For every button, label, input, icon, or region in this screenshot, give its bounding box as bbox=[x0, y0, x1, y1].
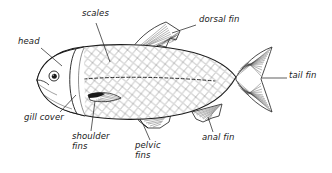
fish-anatomy-diagram: head scales dorsal fin tail fin gill cov… bbox=[0, 0, 332, 173]
fish-illustration bbox=[0, 0, 332, 173]
label-pelvic-fins-line1: pelvic bbox=[135, 140, 161, 150]
label-dorsal-fin: dorsal fin bbox=[199, 15, 240, 25]
tail-fin-shape bbox=[236, 47, 272, 112]
label-anal-fin: anal fin bbox=[202, 133, 234, 143]
label-scales: scales bbox=[82, 9, 109, 19]
label-pelvic-fins: pelvicfins bbox=[135, 141, 161, 160]
label-shoulder-fins: shoulderfins bbox=[72, 132, 110, 151]
label-pelvic-fins-line2: fins bbox=[135, 150, 151, 160]
label-head: head bbox=[18, 37, 40, 47]
label-shoulder-fins-line2: fins bbox=[72, 141, 88, 151]
label-tail-fin: tail fin bbox=[289, 71, 317, 81]
head-region bbox=[37, 47, 85, 116]
label-gill-cover: gill cover bbox=[24, 113, 64, 123]
fish-body-group bbox=[37, 22, 287, 140]
label-shoulder-fins-line1: shoulder bbox=[72, 131, 110, 141]
leader-anal-fin bbox=[208, 117, 213, 132]
